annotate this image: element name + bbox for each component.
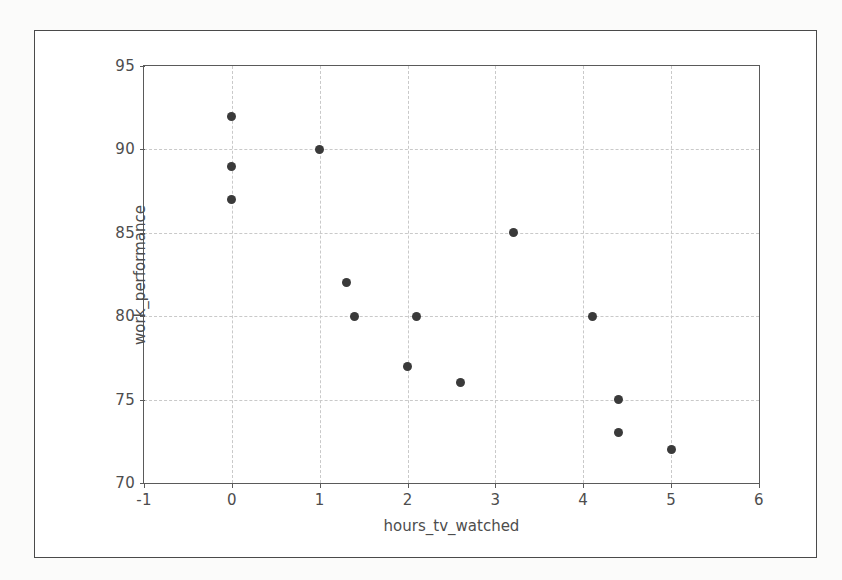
scatter-point [667,445,676,454]
gridline-horizontal [144,400,759,401]
scatter-point [614,428,623,437]
x-axis-tick-label: 0 [227,491,237,509]
y-axis-tick-label: 95 [115,57,135,75]
scatter-point [412,312,421,321]
gridline-vertical [232,66,233,483]
y-axis-tick [140,149,145,150]
gridline-vertical [495,66,496,483]
x-axis-tick [495,483,496,488]
x-axis-tick-label: 2 [403,491,413,509]
scatter-point [227,112,236,121]
x-axis-tick [232,483,233,488]
gridline-horizontal [144,316,759,317]
scatter-point [315,145,324,154]
x-axis-tick-label: 5 [666,491,676,509]
gridline-horizontal [144,149,759,150]
x-axis-tick [671,483,672,488]
scatter-point [614,395,623,404]
scatter-point [403,362,412,371]
figure-frame: 707580859095 -10123456 hours_tv_watched … [34,30,817,558]
gridline-horizontal [144,233,759,234]
gridline-vertical [408,66,409,483]
x-axis-tick [320,483,321,488]
y-axis-tick [140,66,145,67]
x-axis-tick-label: 6 [754,491,764,509]
scatter-point [227,162,236,171]
figure-page: 707580859095 -10123456 hours_tv_watched … [0,0,842,580]
x-axis-tick [583,483,584,488]
y-axis-tick-label: 70 [115,474,135,492]
x-axis-tick [408,483,409,488]
scatter-point [342,278,351,287]
y-axis-tick-label: 75 [115,391,135,409]
x-axis-tick-label: -1 [136,491,152,509]
x-axis-tick-label: 4 [578,491,588,509]
gridline-vertical [671,66,672,483]
scatter-plot-axes: 707580859095 -10123456 hours_tv_watched … [143,65,760,484]
gridline-vertical [320,66,321,483]
x-axis-label: hours_tv_watched [384,517,520,535]
scatter-point [350,312,359,321]
x-axis-tick [144,483,145,488]
x-axis-tick-label: 3 [491,491,501,509]
scatter-point [227,195,236,204]
scatter-point [456,378,465,387]
y-axis-tick-label: 90 [115,140,135,158]
x-axis-tick-label: 1 [315,491,325,509]
scatter-point [588,312,597,321]
x-axis-tick [759,483,760,488]
gridline-vertical [583,66,584,483]
scatter-point [509,228,518,237]
y-axis-tick [140,400,145,401]
y-axis-label: work_performance [131,205,149,345]
